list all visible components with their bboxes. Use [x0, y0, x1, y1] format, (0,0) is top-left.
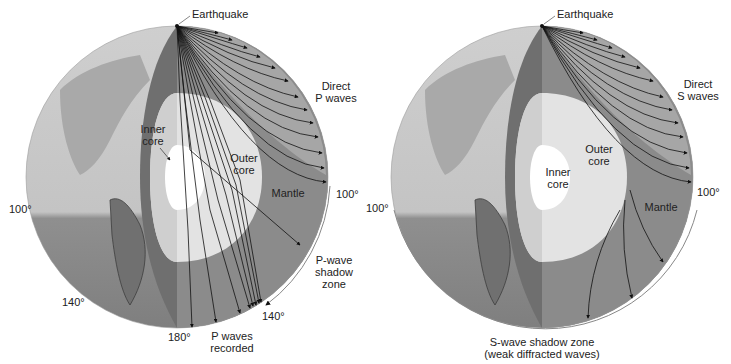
- outer-core-label-2-right: core: [588, 155, 609, 167]
- outer-core-label-1-right: Outer: [585, 143, 613, 155]
- direct-p-waves-label-2: P waves: [315, 92, 357, 104]
- p-recorded-label-2: recorded: [210, 342, 253, 354]
- direct-p-waves-label-1: Direct: [322, 80, 351, 92]
- deg-100-right-left-globe: 100°: [336, 188, 359, 200]
- outer-core-label-1: Outer: [230, 152, 258, 164]
- earthquake-focus-right: [540, 24, 544, 28]
- mantle-label-left: Mantle: [271, 187, 304, 199]
- direct-s-waves-label-2: S waves: [677, 90, 719, 102]
- outer-core-label-2: core: [233, 164, 254, 176]
- s-wave-globe: Earthquake Direct S waves Outer core Inn…: [366, 8, 720, 360]
- seismic-diagram: Earthquake Direct P waves Inner core Out…: [0, 0, 731, 364]
- earthquake-focus-left: [175, 24, 179, 28]
- inner-core-label-2-right: core: [547, 178, 568, 190]
- deg-140-left-left-globe: 140°: [62, 296, 85, 308]
- direct-s-waves-label-1: Direct: [684, 78, 713, 90]
- inner-core-label-2: core: [142, 135, 163, 147]
- deg-100-right-right-globe: 100°: [697, 186, 720, 198]
- inner-core-label-1: Inner: [140, 123, 165, 135]
- p-wave-globe: Earthquake Direct P waves Inner core Out…: [9, 8, 359, 354]
- earthquake-leader-line-left: [179, 16, 190, 24]
- deg-100-left-left-globe: 100°: [9, 203, 32, 215]
- p-shadow-label-3: zone: [322, 278, 346, 290]
- s-shadow-label-1: S-wave shadow zone: [490, 336, 595, 348]
- p-shadow-label-2: shadow: [315, 266, 353, 278]
- inner-core-label-1-right: Inner: [545, 166, 570, 178]
- deg-180: 180°: [168, 331, 191, 343]
- deg-140-right-left-globe: 140°: [262, 310, 285, 322]
- p-recorded-label-1: P waves: [211, 330, 253, 342]
- p-shadow-label-1: P-wave: [316, 254, 353, 266]
- earthquake-label-left: Earthquake: [192, 8, 248, 20]
- s-shadow-label-2: (weak diffracted waves): [484, 348, 599, 360]
- earthquake-leader-line-right: [544, 16, 555, 24]
- mantle-label-right: Mantle: [644, 201, 677, 213]
- earthquake-label-right: Earthquake: [557, 8, 613, 20]
- deg-100-left-right-globe: 100°: [366, 202, 389, 214]
